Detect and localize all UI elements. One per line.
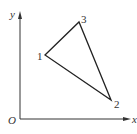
y-axis-label: y <box>9 8 15 20</box>
x-axis-arrow-icon <box>123 117 131 121</box>
point-3-label: 3 <box>81 13 87 25</box>
x-axis-label: x <box>131 113 137 125</box>
origin-label: O <box>8 114 16 126</box>
point-2-label: 2 <box>114 98 120 110</box>
coordinate-diagram: y x O 1 2 3 <box>0 0 137 134</box>
y-axis-arrow-icon <box>18 11 22 19</box>
point-1-label: 1 <box>37 50 43 62</box>
triangle <box>45 22 111 100</box>
